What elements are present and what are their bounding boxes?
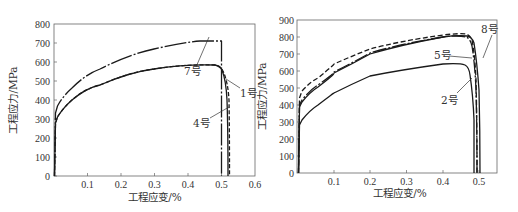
right-x-tick-labels: 0.1 0.2 0.3 0.4 0.5: [328, 176, 486, 187]
right-chart: 0 100 200 300 400 500 600 700 800 900 0.…: [256, 15, 498, 200]
right-label-2: 2号: [441, 94, 458, 106]
right-leader-2: [457, 78, 472, 93]
right-ytick-900: 900: [279, 15, 294, 26]
right-xtick-0.5: 0.5: [473, 176, 486, 187]
left-label-1: 1号: [240, 87, 257, 99]
left-xtick-0.6: 0.6: [249, 179, 262, 190]
left-ytick-300: 300: [35, 114, 50, 125]
left-ytick-600: 600: [35, 57, 50, 68]
left-x-tick-labels: 0.1 0.2 0.3 0.4 0.5 0.6: [81, 179, 261, 190]
left-ytick-200: 200: [35, 133, 50, 144]
left-y-tick-labels: 0 100 200 300 400 500 600 700 800: [35, 19, 50, 182]
left-xtick-0.3: 0.3: [148, 179, 161, 190]
left-chart: 0 100 200 300 400 500 600 700 800 0.1 0.…: [7, 19, 261, 204]
left-plot-frame: [54, 24, 255, 176]
right-ytick-400: 400: [279, 100, 294, 111]
right-x-ticks: [334, 170, 479, 173]
right-ytick-700: 700: [279, 49, 294, 60]
right-y-tick-labels: 0 100 200 300 400 500 600 700 800 900: [279, 15, 294, 179]
left-label-7: 7号: [184, 65, 201, 77]
left-ytick-100: 100: [35, 152, 50, 163]
right-ytick-300: 300: [279, 117, 294, 128]
left-leader-4: [210, 107, 229, 118]
left-ytick-800: 800: [35, 19, 50, 30]
right-ytick-200: 200: [279, 134, 294, 145]
left-ytick-400: 400: [35, 95, 50, 106]
right-xtick-0.3: 0.3: [400, 176, 413, 187]
right-label-8: 8号: [481, 23, 498, 35]
left-xtick-0.5: 0.5: [215, 179, 228, 190]
right-leader-8: [483, 35, 492, 58]
left-xtick-0.4: 0.4: [182, 179, 195, 190]
left-x-ticks: [88, 173, 222, 176]
right-y-axis-label: 工程应力/MPa: [256, 62, 268, 129]
right-ytick-500: 500: [279, 83, 294, 94]
left-series-7: [55, 41, 222, 176]
right-xtick-0.2: 0.2: [364, 176, 377, 187]
figure: 0 100 200 300 400 500 600 700 800 0.1 0.…: [0, 0, 518, 212]
right-ytick-0: 0: [289, 168, 294, 179]
right-leader-5: [449, 56, 472, 58]
left-ytick-700: 700: [35, 38, 50, 49]
right-label-5: 5号: [434, 49, 451, 61]
right-xtick-0.4: 0.4: [437, 176, 450, 187]
right-ytick-600: 600: [279, 66, 294, 77]
right-ytick-100: 100: [279, 151, 294, 162]
left-x-axis-label: 工程应变/%: [128, 191, 182, 203]
left-label-4: 4号: [193, 117, 210, 129]
left-y-axis-label: 工程应力/MPa: [7, 66, 19, 133]
right-ytick-800: 800: [279, 32, 294, 43]
left-xtick-0.1: 0.1: [81, 179, 94, 190]
left-ytick-500: 500: [35, 76, 50, 87]
right-xtick-0.1: 0.1: [328, 176, 341, 187]
left-ytick-0: 0: [45, 171, 50, 182]
left-xtick-0.2: 0.2: [115, 179, 128, 190]
right-x-axis-label: 工程应变/%: [373, 187, 427, 199]
